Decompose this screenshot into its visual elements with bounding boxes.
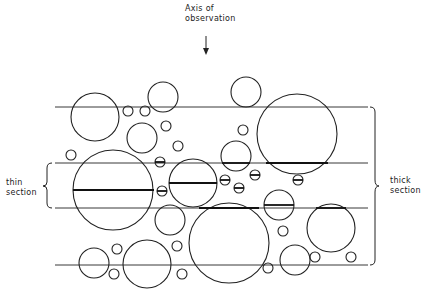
particle-circle — [66, 150, 76, 160]
particle-circle — [148, 82, 178, 112]
thick-section-brace-icon — [370, 107, 379, 265]
particle-circle — [221, 141, 251, 171]
particle-circle — [257, 94, 337, 174]
particle-circle — [307, 204, 355, 252]
thick-label-line2: section — [390, 186, 421, 196]
particle-circle — [278, 226, 288, 236]
particle-circle — [79, 248, 109, 278]
thin-section-brace-icon — [43, 163, 52, 208]
thick-section-label: thick section — [390, 176, 421, 196]
particle-circle — [127, 123, 157, 153]
particle-circle — [155, 205, 185, 235]
axis-of-observation-label: Axis of observation — [185, 4, 236, 24]
particle-circle — [71, 93, 119, 141]
thin-section-label: thin section — [6, 178, 37, 198]
particle-circle — [123, 240, 171, 288]
particle-circle — [177, 269, 187, 279]
particle-circle — [238, 125, 248, 135]
axis-arrow-icon — [203, 36, 209, 55]
particle-circle — [280, 245, 310, 275]
thick-label-line1: thick — [390, 176, 421, 186]
particle-circle — [109, 269, 119, 279]
particle-circle — [140, 106, 150, 116]
axis-label-line2: observation — [185, 14, 236, 24]
particle-circle — [161, 121, 171, 131]
particle-circle — [231, 77, 261, 107]
particle-circle — [310, 252, 320, 262]
thin-label-line2: section — [6, 188, 37, 198]
particle-circle — [263, 263, 273, 273]
particle-circle — [189, 203, 269, 283]
particle-circle — [172, 241, 182, 251]
section-planes — [55, 107, 368, 265]
section-diagram — [0, 0, 430, 296]
particle-circle — [123, 106, 133, 116]
particle-circle — [173, 141, 183, 151]
particle-circle — [346, 252, 356, 262]
axis-label-line1: Axis of — [185, 4, 236, 14]
particle-circle — [112, 244, 122, 254]
thin-label-line1: thin — [6, 178, 37, 188]
